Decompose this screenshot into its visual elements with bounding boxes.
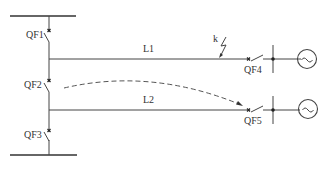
arrowhead-icon <box>236 101 243 106</box>
label-fault-k: k <box>213 33 218 44</box>
label-qf1: QF1 <box>26 29 44 40</box>
breaker-qf2: QF2 <box>24 79 51 92</box>
ac-source-icon <box>302 58 313 62</box>
label-qf4: QF4 <box>244 64 262 75</box>
power-system-diagram: QF1 QF2 QF3 L1 k QF4 <box>0 0 331 169</box>
label-qf2: QF2 <box>24 79 42 90</box>
breaker-qf3: QF3 <box>24 129 51 141</box>
label-qf5: QF5 <box>244 115 262 126</box>
breaker-qf1: QF1 <box>26 29 51 42</box>
line-l1: L1 <box>49 43 247 59</box>
label-l2: L2 <box>143 94 154 105</box>
fault-point-k: k <box>213 33 226 58</box>
breaker-qf4: QF4 <box>244 45 301 75</box>
breaker-qf5: QF5 <box>244 96 300 126</box>
generator-2 <box>299 100 318 119</box>
lightning-bolt-icon <box>221 37 226 55</box>
fault-arrowhead-icon <box>219 53 223 58</box>
label-qf3: QF3 <box>24 129 42 140</box>
label-l1: L1 <box>143 43 154 54</box>
ac-source-icon <box>303 108 314 112</box>
